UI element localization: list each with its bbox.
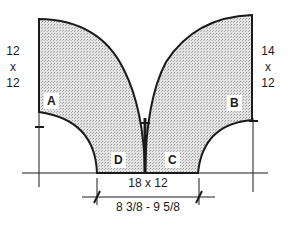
piece-b-size: 14 x 12	[258, 43, 278, 91]
bottom-dimension-label: 18 x 12	[100, 177, 196, 189]
piece-label-c: C	[165, 152, 180, 168]
gap-dimension-label: 8 3/8 - 9 5/8	[100, 201, 196, 213]
piece-label-b: B	[227, 95, 242, 111]
piece-b-size-width: 14	[258, 43, 278, 59]
diagram-canvas	[0, 0, 288, 225]
piece-label-d: D	[111, 152, 126, 168]
piece-a-size-width: 12	[3, 43, 23, 59]
right-piece-shape	[145, 15, 252, 173]
piece-a-size-height: 12	[3, 75, 23, 91]
piece-b-size-x: x	[258, 59, 278, 75]
piece-label-a: A	[44, 93, 59, 109]
piece-a-size-x: x	[3, 59, 23, 75]
piece-b-size-height: 12	[258, 75, 278, 91]
piece-a-size: 12 x 12	[3, 43, 23, 91]
